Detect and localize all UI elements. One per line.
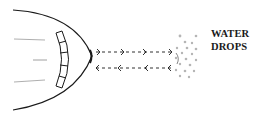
radar-antenna [56,31,69,88]
label-line-1: WATER [211,27,249,40]
outgoing-signal [96,49,174,55]
fuselage-line-bottom [14,80,45,82]
radome-outline [13,10,92,110]
radar-diagram [0,0,265,116]
label-line-2: DROPS [211,40,249,53]
return-signal [96,65,172,71]
fuselage-line-top [14,39,45,40]
water-drops-label: WATER DROPS [211,27,249,53]
radome-tip [90,50,92,63]
